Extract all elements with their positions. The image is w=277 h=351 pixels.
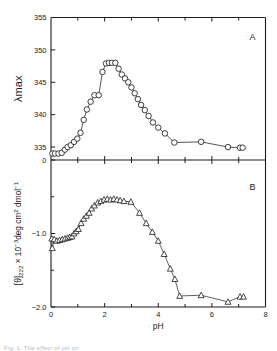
data-point-circle <box>125 80 131 86</box>
svg-text:[θ]222 × 10−3deg cm2 dmol−1: [θ]222 × 10−3deg cm2 dmol−1 <box>12 181 24 285</box>
data-point-circle <box>156 125 162 131</box>
data-point-circle <box>113 60 119 65</box>
data-point-circle <box>162 131 168 137</box>
series-b-line <box>52 199 244 302</box>
panel-a-letter: A <box>249 32 255 42</box>
data-point-circle <box>172 140 178 146</box>
data-point-circle <box>132 91 138 97</box>
data-point-circle <box>96 92 102 98</box>
y-axis-title-a: λmax <box>12 75 24 102</box>
data-point-triangle <box>149 229 155 235</box>
y-tick-label-a: 355 <box>34 13 47 22</box>
series-a-line <box>52 63 242 154</box>
x-tick-label: 8 <box>263 310 267 319</box>
svg-text:λmax: λmax <box>12 75 24 102</box>
data-point-triangle <box>143 220 149 226</box>
data-point-circle <box>142 107 148 113</box>
figure-container: 02468pH3353403453503550λmax−1.0−2.0[θ]22… <box>0 0 277 351</box>
data-point-circle <box>84 107 90 113</box>
figure-caption: Fig. 1. The effect of pH on <box>4 345 79 351</box>
data-point-triangle <box>161 251 167 257</box>
data-point-circle <box>100 69 106 75</box>
data-point-triangle <box>49 245 55 251</box>
y-axis-title-b: [θ]222 × 10−3deg cm2 dmol−1 <box>12 181 24 285</box>
y-tick-label-b: −2.0 <box>32 303 47 312</box>
x-tick-label: 4 <box>156 310 160 319</box>
y-tick-label-a: 345 <box>34 78 47 87</box>
data-point-circle <box>116 66 122 72</box>
x-tick-label: 2 <box>103 310 107 319</box>
data-point-triangle <box>172 276 178 282</box>
data-point-circle <box>135 96 141 102</box>
two-panel-ph-figure: 02468pH3353403453503550λmax−1.0−2.0[θ]22… <box>0 0 277 351</box>
y-tick-label-a: 340 <box>34 110 47 119</box>
data-point-triangle <box>167 266 173 272</box>
data-point-triangle <box>155 238 161 244</box>
y-tick-label-a: 350 <box>34 46 47 55</box>
data-point-circle <box>138 102 144 108</box>
data-point-circle <box>198 139 204 145</box>
panel-b-letter: B <box>249 182 255 192</box>
data-point-triangle <box>198 292 204 298</box>
data-point-circle <box>81 117 87 123</box>
y-tick-label-a: 335 <box>34 143 47 152</box>
x-tick-label: 6 <box>210 310 214 319</box>
data-point-circle <box>78 130 84 136</box>
y-tick-label-b: −1.0 <box>32 229 47 238</box>
data-point-circle <box>88 99 94 105</box>
data-point-circle <box>225 144 231 150</box>
data-point-circle <box>146 113 152 119</box>
x-tick-label: 0 <box>49 310 53 319</box>
data-point-circle <box>150 120 156 126</box>
x-axis-title: pH <box>153 321 164 331</box>
data-point-circle <box>75 136 81 142</box>
y-axis-break-label: 0 <box>42 156 46 165</box>
data-point-circle <box>129 85 135 91</box>
data-point-circle <box>240 145 246 151</box>
